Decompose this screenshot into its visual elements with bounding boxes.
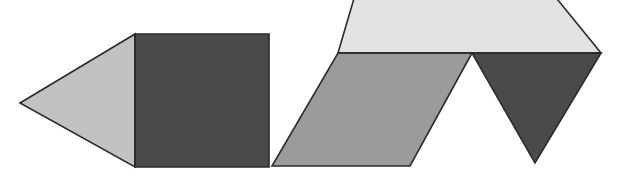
light-top-trapezoid: [338, 0, 601, 53]
dark-square: [135, 34, 269, 167]
figure-canvas: [0, 0, 617, 176]
shapes-svg: [0, 0, 617, 176]
